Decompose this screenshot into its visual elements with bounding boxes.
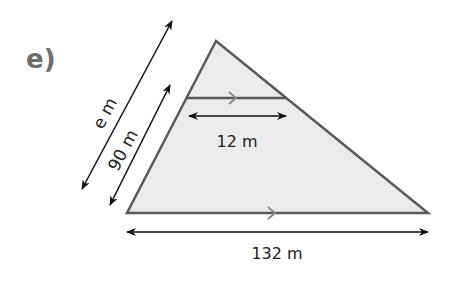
top-parallel-label: 12 m (216, 132, 257, 151)
outer-triangle (127, 41, 428, 213)
partial-side-label: 90 m (104, 126, 142, 174)
base-label: 132 m (251, 244, 302, 263)
part-label: e) (26, 44, 56, 74)
similar-triangles-diagram: e) e m 90 m 12 m 132 m (0, 0, 462, 283)
